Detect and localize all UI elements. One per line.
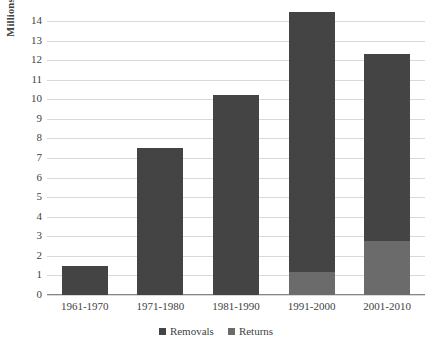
y-axis-tick-labels: 14131211109876543210 bbox=[0, 21, 42, 295]
bar-segment-returns[interactable] bbox=[289, 272, 335, 295]
gridline bbox=[47, 295, 425, 296]
chart-legend: RemovalsReturns bbox=[0, 325, 432, 337]
bar-segment-returns[interactable] bbox=[364, 241, 410, 295]
y-axis-tick-label: 14 bbox=[2, 15, 42, 26]
x-axis-tick-label: 1981-1990 bbox=[198, 300, 274, 312]
x-axis-tick-label: 1971-1980 bbox=[123, 300, 199, 312]
y-axis-tick-label: 4 bbox=[2, 211, 42, 222]
bar-stack[interactable] bbox=[137, 148, 183, 295]
x-axis-tick-label: 1991-2000 bbox=[274, 300, 350, 312]
y-axis-tick-label: 6 bbox=[2, 172, 42, 183]
bar-group[interactable] bbox=[198, 21, 274, 295]
y-axis-tick-label: 3 bbox=[2, 230, 42, 241]
y-axis-tick-label: 11 bbox=[2, 74, 42, 85]
chart-title bbox=[0, 0, 432, 2]
bar-stack[interactable] bbox=[213, 95, 259, 295]
legend-item[interactable]: Removals bbox=[159, 325, 214, 337]
bar-series-area bbox=[47, 21, 425, 295]
bar-segment-removals[interactable] bbox=[213, 95, 259, 295]
bar-group[interactable] bbox=[274, 21, 350, 295]
bar-segment-removals[interactable] bbox=[62, 266, 108, 295]
y-axis-tick-label: 10 bbox=[2, 93, 42, 104]
y-axis-tick-label: 1 bbox=[2, 269, 42, 280]
bar-stack[interactable] bbox=[289, 12, 335, 295]
bar-segment-removals[interactable] bbox=[137, 148, 183, 295]
bar-stack[interactable] bbox=[364, 54, 410, 295]
y-axis-tick-label: 13 bbox=[2, 35, 42, 46]
y-axis-tick-label: 0 bbox=[2, 289, 42, 300]
bar-stack[interactable] bbox=[62, 266, 108, 295]
y-axis-tick-label: 8 bbox=[2, 132, 42, 143]
bar-group[interactable] bbox=[47, 21, 123, 295]
bar-group[interactable] bbox=[123, 21, 199, 295]
legend-label: Returns bbox=[239, 325, 273, 337]
legend-swatch-icon bbox=[159, 328, 166, 335]
x-axis-tick-label: 2001-2010 bbox=[349, 300, 425, 312]
legend-label: Removals bbox=[170, 325, 214, 337]
chart-container: Millions 14131211109876543210 1961-19701… bbox=[0, 0, 432, 344]
y-axis-tick-label: 9 bbox=[2, 113, 42, 124]
bar-group[interactable] bbox=[349, 21, 425, 295]
y-axis-tick-label: 12 bbox=[2, 54, 42, 65]
bar-segment-removals[interactable] bbox=[289, 12, 335, 271]
legend-swatch-icon bbox=[228, 328, 235, 335]
legend-item[interactable]: Returns bbox=[228, 325, 273, 337]
y-axis-tick-label: 5 bbox=[2, 191, 42, 202]
bar-segment-removals[interactable] bbox=[364, 54, 410, 241]
x-axis-tick-labels: 1961-19701971-19801981-19901991-20002001… bbox=[47, 300, 425, 312]
x-axis-tick-label: 1961-1970 bbox=[47, 300, 123, 312]
y-axis-tick-label: 2 bbox=[2, 250, 42, 261]
y-axis-tick-label: 7 bbox=[2, 152, 42, 163]
